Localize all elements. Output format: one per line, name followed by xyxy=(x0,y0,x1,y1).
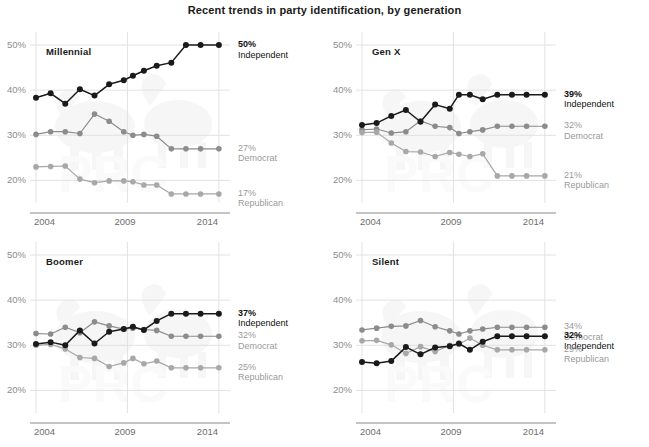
data-point-independent xyxy=(130,73,136,79)
data-point-republican xyxy=(374,129,380,135)
series-end-label-republican: 17%Republican xyxy=(238,188,283,209)
data-point-republican xyxy=(388,342,394,348)
data-point-independent xyxy=(456,340,462,346)
data-point-republican xyxy=(509,173,515,179)
data-point-independent xyxy=(524,92,530,98)
data-point-republican xyxy=(388,140,394,146)
data-point-democrat xyxy=(169,333,175,339)
x-axis-tick-label: 2009 xyxy=(440,426,461,437)
series-end-name-democrat: Democrat xyxy=(564,131,603,142)
data-point-republican xyxy=(542,347,548,353)
data-point-republican xyxy=(456,151,462,157)
series-end-label-independent: 37%Independent xyxy=(238,308,288,329)
data-point-democrat xyxy=(48,129,54,135)
data-point-republican xyxy=(480,151,486,157)
data-point-republican xyxy=(403,149,409,155)
data-point-democrat xyxy=(62,129,68,135)
data-point-democrat xyxy=(183,146,189,152)
series-end-label-independent: 50%Independent xyxy=(238,39,288,60)
series-end-value-independent: 39% xyxy=(564,89,614,100)
panel-silent: PRCSilent20%30%40%50%20042009201434%Demo… xyxy=(326,232,649,439)
data-point-democrat xyxy=(77,131,83,137)
data-point-democrat xyxy=(183,333,189,339)
data-point-democrat xyxy=(106,323,112,329)
data-point-independent xyxy=(168,311,174,317)
data-point-independent xyxy=(542,333,548,339)
data-point-independent xyxy=(198,42,204,48)
series-end-value-democrat: 27% xyxy=(238,143,277,154)
y-axis-tick-label: 40% xyxy=(0,84,26,95)
data-point-independent xyxy=(183,42,189,48)
data-point-independent xyxy=(494,333,500,339)
series-end-name-democrat: Democrat xyxy=(238,153,277,164)
data-point-democrat xyxy=(62,324,68,330)
y-axis-tick-label: 40% xyxy=(324,84,352,95)
data-point-republican xyxy=(33,164,39,170)
data-point-independent xyxy=(456,92,462,98)
data-point-democrat xyxy=(509,123,515,129)
y-axis-tick-label: 20% xyxy=(324,174,352,185)
x-axis-tick-label: 2014 xyxy=(197,426,218,437)
data-point-democrat xyxy=(403,323,409,329)
x-axis-tick-label: 2004 xyxy=(360,216,381,227)
x-axis-tick-label: 2004 xyxy=(34,426,55,437)
y-axis-tick-label: 50% xyxy=(0,39,26,50)
data-point-democrat xyxy=(388,324,394,330)
data-point-independent xyxy=(92,340,98,346)
data-point-independent xyxy=(77,86,83,92)
data-point-independent xyxy=(432,345,438,351)
data-point-republican xyxy=(467,335,473,341)
data-point-republican xyxy=(130,356,136,362)
data-point-democrat xyxy=(198,146,204,152)
data-point-independent xyxy=(494,92,500,98)
data-point-republican xyxy=(92,356,98,362)
series-end-value-independent: 37% xyxy=(238,308,288,319)
data-point-democrat xyxy=(509,324,515,330)
data-point-democrat xyxy=(495,324,501,330)
data-point-independent xyxy=(418,119,424,125)
data-point-democrat xyxy=(121,129,127,135)
y-axis-tick-label: 30% xyxy=(324,339,352,350)
data-point-independent xyxy=(121,77,127,83)
series-end-value-republican: 17% xyxy=(238,188,283,199)
data-point-republican xyxy=(121,360,127,366)
data-point-independent xyxy=(77,327,83,333)
data-point-democrat xyxy=(542,123,548,129)
x-axis-tick-label: 2009 xyxy=(114,216,135,227)
series-end-name-republican: Republican xyxy=(238,198,283,209)
data-point-republican xyxy=(524,347,530,353)
data-point-republican xyxy=(509,347,515,353)
data-point-republican xyxy=(374,338,380,344)
data-point-independent xyxy=(62,342,68,348)
chart-figure: Recent trends in party identification, b… xyxy=(0,0,649,447)
data-point-democrat xyxy=(92,319,98,325)
data-point-democrat xyxy=(456,331,462,337)
data-point-independent xyxy=(359,122,365,128)
data-point-independent xyxy=(432,102,438,108)
data-point-independent xyxy=(141,327,147,333)
series-end-value-independent: 32% xyxy=(564,330,614,341)
series-end-value-democrat: 32% xyxy=(238,330,277,341)
data-point-independent xyxy=(524,333,530,339)
x-axis-tick-label: 2014 xyxy=(523,426,544,437)
data-point-democrat xyxy=(403,129,409,135)
series-end-name-republican: Republican xyxy=(564,180,609,191)
data-point-independent xyxy=(467,347,473,353)
data-point-democrat xyxy=(374,325,380,331)
data-point-democrat xyxy=(130,133,136,139)
data-point-independent xyxy=(374,360,380,366)
data-point-republican xyxy=(418,344,424,350)
data-point-independent xyxy=(141,68,147,74)
data-point-democrat xyxy=(169,146,175,152)
series-end-value-republican: 29% xyxy=(564,344,609,355)
data-point-democrat xyxy=(447,328,453,334)
series-end-label-democrat: 27%Democrat xyxy=(238,143,277,164)
data-point-independent xyxy=(130,324,136,330)
x-axis-tick-label: 2004 xyxy=(360,426,381,437)
data-point-republican xyxy=(92,180,98,186)
data-point-republican xyxy=(106,364,112,370)
series-end-label-independent: 39%Independent xyxy=(564,89,614,110)
data-point-democrat xyxy=(467,129,473,135)
data-point-democrat xyxy=(106,119,112,125)
data-point-independent xyxy=(198,311,204,317)
